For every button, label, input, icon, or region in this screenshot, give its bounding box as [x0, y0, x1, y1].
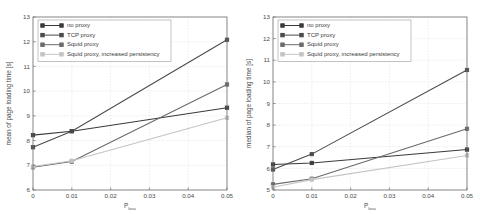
legend-marker-tcp_proxy-0 [281, 33, 284, 36]
legend-label-tcp_proxy: TCP proxy [307, 32, 335, 38]
legend-label-no_proxy: no proxy [67, 22, 90, 28]
legend-label-squid_proxy_persistency: Squid proxy, increased persistency [307, 51, 400, 57]
yticklabel-1: 6 [267, 165, 271, 172]
yticklabel-5: 10 [263, 78, 270, 85]
xticklabel-5: 0.05 [221, 192, 234, 199]
xticklabel-2: 0.02 [345, 192, 358, 199]
legend-marker-squid_proxy-1 [300, 43, 303, 46]
series-line-no_proxy [33, 108, 227, 135]
yticklabel-7: 13 [23, 13, 30, 20]
legend-marker-no_proxy-0 [41, 24, 44, 27]
legend-marker-tcp_proxy-0 [41, 33, 44, 36]
series-line-no_proxy [273, 150, 467, 165]
xticklabel-0: 0 [31, 192, 35, 199]
xticklabel-3: 0.03 [383, 192, 396, 199]
legend-marker-squid_proxy_persistency-1 [300, 53, 303, 56]
legend: no proxyTCP proxySquid proxySquid proxy,… [278, 20, 411, 61]
series-squid_proxy [271, 127, 468, 186]
series-marker-tcp_proxy-1 [70, 129, 73, 132]
plot-canvas-mean-plot: 00.010.020.030.040.05678910111213Plossme… [0, 0, 240, 215]
series-marker-squid_proxy_persistency-1 [310, 178, 313, 181]
series-squid_proxy_persistency [31, 116, 228, 168]
figure-page: 00.010.020.030.040.05678910111213Plossme… [0, 0, 480, 215]
xticklabel-3: 0.03 [143, 192, 156, 199]
series-squid_proxy_persistency [271, 154, 468, 189]
xticklabel-1: 0.01 [66, 192, 79, 199]
yticklabel-6: 12 [23, 38, 30, 45]
legend-marker-squid_proxy_persistency-0 [41, 53, 44, 56]
x-axis-title: Ploss [364, 202, 377, 211]
yticklabel-4: 10 [23, 87, 30, 94]
yticklabel-3: 8 [267, 121, 271, 128]
legend-marker-tcp_proxy-1 [300, 33, 303, 36]
legend-marker-squid_proxy_persistency-1 [60, 53, 63, 56]
yticklabel-3: 9 [27, 112, 31, 119]
yticklabel-2: 7 [267, 143, 271, 150]
series-no_proxy [271, 148, 468, 166]
yticklabel-2: 8 [27, 137, 31, 144]
legend-marker-tcp_proxy-1 [60, 33, 63, 36]
y-axis-title: mean of page loading time [s] [5, 61, 13, 145]
series-line-tcp_proxy [273, 70, 467, 169]
xticklabel-1: 0.01 [306, 192, 319, 199]
series-marker-no_proxy-1 [310, 161, 313, 164]
xticklabel-4: 0.04 [422, 192, 435, 199]
legend-label-squid_proxy: Squid proxy [67, 41, 99, 47]
legend-marker-no_proxy-1 [60, 24, 63, 27]
legend-label-no_proxy: no proxy [307, 22, 330, 28]
series-marker-squid_proxy_persistency-1 [70, 159, 73, 162]
series-tcp_proxy [271, 68, 468, 171]
legend-marker-squid_proxy-0 [41, 43, 44, 46]
x-axis-title-subscript: loss [128, 206, 137, 211]
legend-marker-squid_proxy_persistency-0 [281, 53, 284, 56]
xticklabel-2: 0.02 [105, 192, 118, 199]
legend-label-tcp_proxy: TCP proxy [67, 32, 95, 38]
y-axis-title: median of page loading time [s] [245, 59, 253, 148]
x-axis-title-subscript: loss [368, 206, 377, 211]
series-marker-tcp_proxy-1 [310, 152, 313, 155]
yticklabel-7: 12 [263, 35, 270, 42]
legend-marker-no_proxy-1 [300, 24, 303, 27]
x-axis-title: Ploss [124, 202, 137, 211]
series-line-squid_proxy_persistency [33, 118, 227, 167]
chart-median-page-loading-time: 00.010.020.030.040.055678910111213Plossm… [240, 0, 480, 215]
xticklabel-5: 0.05 [461, 192, 474, 199]
legend-marker-squid_proxy-1 [60, 43, 63, 46]
legend-label-squid_proxy: Squid proxy [307, 41, 339, 47]
yticklabel-6: 11 [264, 56, 271, 63]
chart-mean-page-loading-time: 00.010.020.030.040.05678910111213Plossme… [0, 0, 240, 215]
yticklabel-8: 13 [263, 13, 270, 20]
xticklabel-0: 0 [271, 192, 275, 199]
series-line-squid_proxy [273, 129, 467, 185]
yticklabel-5: 11 [24, 63, 31, 70]
legend-marker-no_proxy-0 [281, 24, 284, 27]
legend-marker-squid_proxy-0 [281, 43, 284, 46]
yticklabel-0: 6 [27, 186, 31, 193]
legend: no proxyTCP proxySquid proxySquid proxy,… [38, 20, 171, 61]
yticklabel-4: 9 [267, 100, 271, 107]
yticklabel-1: 7 [27, 161, 31, 168]
xticklabel-4: 0.04 [182, 192, 195, 199]
plot-canvas-median-plot: 00.010.020.030.040.055678910111213Plossm… [240, 0, 480, 215]
legend-label-squid_proxy_persistency: Squid proxy, increased persistency [67, 51, 160, 57]
yticklabel-0: 5 [267, 186, 271, 193]
